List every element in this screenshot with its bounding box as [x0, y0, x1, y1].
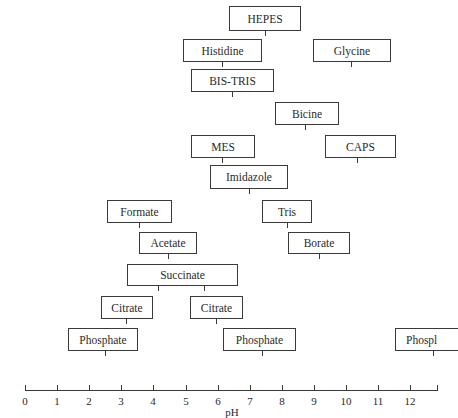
pka-marker: [139, 223, 140, 228]
buffer-box-caps: CAPS: [325, 135, 396, 158]
pka-marker: [222, 158, 223, 163]
pka-marker: [357, 158, 358, 163]
buffer-box-succinate: Succinate: [127, 264, 238, 286]
buffer-box-phosphate-3: Phospl: [395, 328, 458, 351]
x-tick: [346, 385, 347, 391]
x-tick: [89, 385, 90, 391]
pka-marker: [216, 319, 217, 324]
pka-marker: [433, 351, 434, 356]
x-tick: [378, 385, 379, 391]
x-tick: [186, 385, 187, 391]
x-tick: [25, 385, 26, 391]
buffer-box-mes: MES: [191, 135, 255, 158]
x-tick: [410, 385, 411, 391]
buffer-box-formate: Formate: [107, 200, 172, 223]
buffer-box-acetate: Acetate: [139, 232, 197, 254]
x-tick-label: 9: [311, 395, 317, 407]
pka-marker: [204, 286, 205, 291]
x-tick-label: 7: [247, 395, 253, 407]
x-tick: [282, 385, 283, 391]
x-tick: [57, 385, 58, 391]
buffer-box-tris: Tris: [262, 200, 312, 223]
pka-marker: [222, 62, 223, 67]
x-tick-label: 6: [215, 395, 221, 407]
buffer-box-borate: Borate: [288, 232, 350, 254]
x-axis-label: pH: [225, 406, 238, 418]
x-tick-label: 5: [183, 395, 189, 407]
x-tick-label: 8: [279, 395, 285, 407]
buffer-box-phosphate-1: Phosphate: [68, 328, 138, 351]
pka-marker: [305, 125, 306, 130]
buffer-box-imidazole: Imidazole: [210, 165, 288, 189]
pka-marker: [168, 254, 169, 259]
x-tick: [314, 385, 315, 391]
pka-marker: [265, 31, 266, 36]
pka-marker: [287, 223, 288, 228]
buffer-box-bicine: Bicine: [275, 102, 339, 125]
pka-marker: [105, 351, 106, 356]
x-tick: [250, 385, 251, 391]
buffer-box-citrate-1: Citrate: [101, 296, 153, 319]
buffer-box-histidine: Histidine: [183, 39, 262, 62]
pka-marker: [351, 62, 352, 67]
x-tick: [153, 385, 154, 391]
x-tick-label: 1: [54, 395, 60, 407]
x-tick: [218, 385, 219, 391]
x-axis: [25, 390, 438, 391]
buffer-box-bis-tris: BIS-TRIS: [191, 69, 274, 92]
x-tick: [437, 385, 438, 391]
x-tick-label: 4: [150, 395, 156, 407]
pka-marker: [126, 319, 127, 324]
pka-marker: [232, 92, 233, 97]
buffer-box-phosphate-2: Phosphate: [223, 328, 296, 351]
buffer-box-citrate-2: Citrate: [190, 296, 243, 319]
x-tick: [121, 385, 122, 391]
x-tick-label: 2: [86, 395, 92, 407]
pka-marker: [158, 286, 159, 291]
buffer-box-hepes: HEPES: [229, 6, 301, 31]
x-tick-label: 3: [118, 395, 124, 407]
pka-marker: [262, 351, 263, 356]
pka-marker: [249, 189, 250, 194]
x-tick-label: 12: [405, 395, 416, 407]
x-tick-label: 10: [341, 395, 352, 407]
x-tick-label: 0: [22, 395, 28, 407]
pka-marker: [319, 254, 320, 259]
buffer-box-glycine: Glycine: [313, 39, 391, 62]
x-tick-label: 11: [373, 395, 384, 407]
